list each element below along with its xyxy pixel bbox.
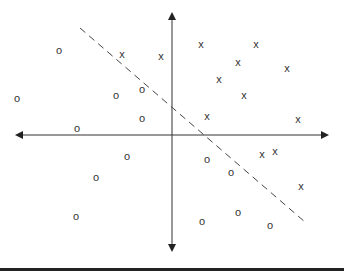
x-marker: x: [235, 56, 241, 68]
o-marker: o: [235, 206, 241, 218]
o-marker: o: [113, 89, 119, 101]
o-marker: o: [204, 153, 210, 165]
x-marker: x: [216, 73, 222, 85]
o-marker: o: [267, 219, 273, 231]
o-marker: o: [14, 92, 20, 104]
dashed-boundary-line: [80, 28, 305, 222]
x-marker: x: [198, 38, 204, 50]
x-marker: x: [272, 145, 278, 157]
x-marker: x: [284, 62, 290, 74]
x-marker: x: [158, 50, 164, 62]
x-marker: x: [298, 180, 304, 192]
bottom-rule: [0, 268, 344, 271]
o-marker: o: [139, 112, 145, 124]
x-marker: x: [259, 148, 265, 160]
axes: [17, 14, 327, 250]
o-marker: o: [73, 210, 79, 222]
o-marker: o: [199, 215, 205, 227]
x-marker: x: [241, 89, 247, 101]
x-marker: x: [253, 38, 259, 50]
o-marker: o: [56, 44, 62, 56]
x-marker: x: [204, 110, 210, 122]
x-marker: x: [295, 113, 301, 125]
decision-boundary: [80, 28, 305, 222]
o-marker: o: [228, 166, 234, 178]
o-marker: o: [139, 83, 145, 95]
o-marker: o: [74, 122, 80, 134]
o-marker: o: [93, 171, 99, 183]
scatter-diagram: ooooooooooooooxxxxxxxxxxxxx: [0, 0, 344, 275]
o-marker: o: [124, 150, 130, 162]
x-marker: x: [119, 48, 125, 60]
